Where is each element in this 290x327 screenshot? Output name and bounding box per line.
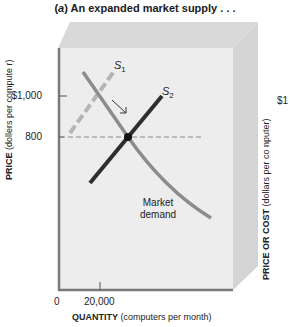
s2-label: S2: [162, 85, 174, 100]
panel-top-face: [58, 22, 258, 48]
y-axis-label: PRICE (dollers per compute r): [4, 59, 14, 180]
chart-canvas: [0, 0, 290, 327]
panel-front-face: [58, 48, 233, 290]
market-demand-label: Marketdemand: [140, 197, 176, 221]
equilibrium-point: [124, 133, 132, 141]
x-axis-label: QUANTITY (computers per month): [72, 312, 212, 322]
right-panel-tick-label: $1: [277, 95, 288, 106]
x-tick-label-20000: 20,000: [84, 296, 115, 307]
x-tick-label-0: 0: [54, 296, 60, 307]
panel-side-face: [233, 22, 258, 290]
right-panel-y-axis-label: PRICE OR COST (dollars per co nputer): [261, 118, 271, 280]
s1-label: S1: [114, 59, 126, 74]
